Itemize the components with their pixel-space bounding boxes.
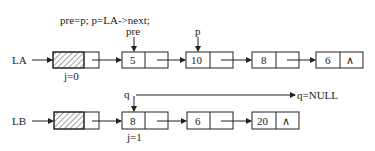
list-b-index-label: j=1 [127, 131, 142, 143]
list-b-node-value: 6 [195, 115, 201, 127]
null-symbol: ∧ [346, 54, 354, 66]
list-a-node-value: 5 [130, 54, 136, 66]
pointer-label-p: p [195, 25, 201, 37]
list-b-node-value: 8 [130, 115, 136, 127]
list-a-index-label: j=0 [64, 70, 79, 82]
list-a-label: LA [12, 54, 27, 66]
list-a-node-value: 6 [325, 54, 331, 66]
linked-list-diagram [0, 0, 375, 151]
list-a-node-value: 8 [261, 54, 267, 66]
list-b-label: LB [12, 115, 26, 127]
q-null-label: q=NULL [297, 89, 338, 101]
list-a-node-value: 10 [191, 54, 202, 66]
list-b-node-value: 20 [257, 115, 268, 127]
pointer-label-pre: pre [126, 25, 140, 37]
pointer-label-q: q [124, 88, 130, 100]
null-symbol: ∧ [282, 115, 290, 127]
